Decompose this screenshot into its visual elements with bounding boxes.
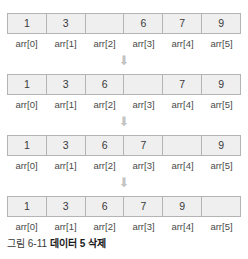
array-index-label: arr[3] bbox=[124, 219, 163, 234]
array-index-label: arr[3] bbox=[124, 36, 163, 51]
array-index-label: arr[2] bbox=[85, 36, 124, 51]
down-arrow-icon: ⬇ bbox=[0, 54, 248, 67]
array-cell: 1 bbox=[8, 136, 47, 155]
array-cell-empty bbox=[86, 14, 125, 33]
array-index-label: arr[1] bbox=[46, 158, 85, 173]
array-index-label: arr[5] bbox=[202, 97, 241, 112]
figure-caption-number: 그림 6-11 bbox=[7, 238, 47, 249]
array-cell: 7 bbox=[124, 136, 163, 155]
array-deletion-figure: 1 3 6 7 9 arr[0] arr[1] arr[2] arr[3] ar… bbox=[0, 0, 248, 259]
array-cell-empty bbox=[202, 197, 240, 216]
array-index-label: arr[4] bbox=[163, 158, 202, 173]
array-cell: 1 bbox=[8, 14, 47, 33]
array-row: 1 3 6 7 9 bbox=[7, 74, 241, 95]
array-cell: 3 bbox=[47, 136, 86, 155]
array-step-4: 1 3 6 7 9 arr[0] arr[1] arr[2] arr[3] ar… bbox=[7, 196, 241, 234]
array-cell: 9 bbox=[163, 197, 202, 216]
figure-caption-title: 데이터 5 삭제 bbox=[50, 238, 106, 249]
array-cell: 6 bbox=[124, 14, 163, 33]
array-row: 1 3 6 7 9 bbox=[7, 196, 241, 217]
array-index-label: arr[1] bbox=[46, 36, 85, 51]
array-index-row: arr[0] arr[1] arr[2] arr[3] arr[4] arr[5… bbox=[7, 219, 241, 234]
figure-caption: 그림 6-11데이터 5 삭제 bbox=[7, 237, 106, 250]
array-index-label: arr[3] bbox=[124, 158, 163, 173]
array-index-label: arr[0] bbox=[7, 36, 46, 51]
array-index-label: arr[0] bbox=[7, 158, 46, 173]
array-cell: 6 bbox=[86, 197, 125, 216]
array-row: 1 3 6 7 9 bbox=[7, 13, 241, 34]
array-index-row: arr[0] arr[1] arr[2] arr[3] arr[4] arr[5… bbox=[7, 97, 241, 112]
array-row: 1 3 6 7 9 bbox=[7, 135, 241, 156]
array-step-2: 1 3 6 7 9 arr[0] arr[1] arr[2] arr[3] ar… bbox=[7, 74, 241, 112]
array-index-label: arr[0] bbox=[7, 97, 46, 112]
array-cell: 1 bbox=[8, 197, 47, 216]
array-index-row: arr[0] arr[1] arr[2] arr[3] arr[4] arr[5… bbox=[7, 36, 241, 51]
array-cell-empty bbox=[163, 136, 202, 155]
array-cell: 9 bbox=[202, 75, 240, 94]
array-cell: 3 bbox=[47, 197, 86, 216]
array-cell: 9 bbox=[202, 136, 240, 155]
array-index-label: arr[4] bbox=[163, 36, 202, 51]
array-index-label: arr[2] bbox=[85, 97, 124, 112]
array-cell: 9 bbox=[202, 14, 240, 33]
array-index-label: arr[3] bbox=[124, 97, 163, 112]
array-cell: 3 bbox=[47, 14, 86, 33]
array-index-label: arr[0] bbox=[7, 219, 46, 234]
array-index-label: arr[4] bbox=[163, 219, 202, 234]
array-index-label: arr[5] bbox=[202, 219, 241, 234]
array-index-label: arr[4] bbox=[163, 97, 202, 112]
array-step-3: 1 3 6 7 9 arr[0] arr[1] arr[2] arr[3] ar… bbox=[7, 135, 241, 173]
array-index-label: arr[1] bbox=[46, 219, 85, 234]
array-cell: 7 bbox=[163, 75, 202, 94]
array-index-label: arr[2] bbox=[85, 158, 124, 173]
down-arrow-icon: ⬇ bbox=[0, 176, 248, 189]
array-index-label: arr[5] bbox=[202, 36, 241, 51]
array-step-1: 1 3 6 7 9 arr[0] arr[1] arr[2] arr[3] ar… bbox=[7, 13, 241, 51]
array-index-label: arr[1] bbox=[46, 97, 85, 112]
array-cell: 3 bbox=[47, 75, 86, 94]
array-index-label: arr[5] bbox=[202, 158, 241, 173]
array-index-label: arr[2] bbox=[85, 219, 124, 234]
array-cell: 6 bbox=[86, 136, 125, 155]
array-cell-empty bbox=[124, 75, 163, 94]
array-cell: 7 bbox=[124, 197, 163, 216]
array-cell: 1 bbox=[8, 75, 47, 94]
down-arrow-icon: ⬇ bbox=[0, 115, 248, 128]
array-index-row: arr[0] arr[1] arr[2] arr[3] arr[4] arr[5… bbox=[7, 158, 241, 173]
array-cell: 6 bbox=[86, 75, 125, 94]
array-cell: 7 bbox=[163, 14, 202, 33]
